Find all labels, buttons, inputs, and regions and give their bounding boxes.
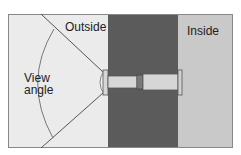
outside-region (8, 14, 108, 148)
view-angle-label-line2: angle (24, 84, 53, 96)
peephole-diagram: Outside Inside View angle (0, 0, 241, 155)
outside-label: Outside (65, 21, 106, 33)
outer-tube (108, 76, 137, 88)
outer-flange (103, 70, 108, 95)
inside-label: Inside (187, 25, 219, 37)
threaded-joint (137, 75, 143, 89)
inner-tube (143, 74, 178, 90)
inner-flange (178, 70, 182, 95)
